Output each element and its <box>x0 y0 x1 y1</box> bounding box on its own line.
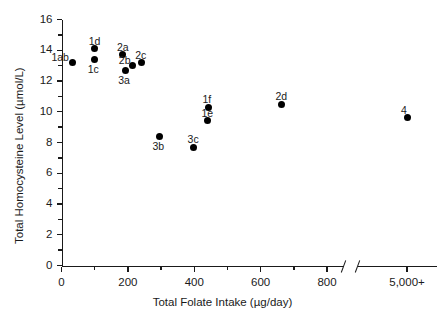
x-tick-minor <box>293 267 294 271</box>
y-tick-minor <box>58 65 62 66</box>
data-point-label: 1c <box>88 64 99 75</box>
x-tick-minor <box>160 267 161 271</box>
data-point-label: 4 <box>401 105 407 116</box>
y-tick-minor <box>58 188 62 189</box>
data-point-label: 1f <box>203 94 212 105</box>
y-tick-major <box>57 19 62 20</box>
data-point-label: 3a <box>118 75 130 86</box>
x-tick-label: 5,000+ <box>377 277 437 289</box>
y-tick-label: 10 <box>22 106 53 118</box>
data-point <box>69 59 76 66</box>
data-point <box>91 56 98 63</box>
data-point <box>156 133 163 140</box>
y-tick-major <box>57 234 62 235</box>
x-tick-minor <box>227 267 228 271</box>
y-tick-major <box>57 173 62 174</box>
y-tick-minor <box>58 96 62 97</box>
x-axis-line-break-segment <box>358 266 437 267</box>
x-tick-major <box>61 267 62 272</box>
y-tick-minor <box>58 34 62 35</box>
y-tick-major <box>57 80 62 81</box>
data-point-label: 1d <box>89 36 101 47</box>
x-tick-major <box>127 267 128 272</box>
y-tick-label: 16 <box>22 14 53 26</box>
x-tick-major-5000 <box>406 267 407 272</box>
data-point-label: 2c <box>135 50 146 61</box>
y-tick-minor <box>58 249 62 250</box>
data-point <box>122 67 129 74</box>
x-tick-major <box>260 267 261 272</box>
y-tick-label: 14 <box>22 44 53 56</box>
y-axis-title: Total Homocysteine Level (µmol/L) <box>14 67 26 244</box>
data-point-label: 1ab <box>51 52 69 63</box>
x-tick-major <box>326 267 327 272</box>
x-tick-label: 800 <box>302 277 352 289</box>
x-tick-label: 0 <box>37 277 87 289</box>
x-tick-label: 600 <box>236 277 286 289</box>
y-tick-minor <box>58 157 62 158</box>
scatter-chart: 0246810121416 02004006008005,000+ 1ab1d1… <box>0 0 445 313</box>
y-tick-major <box>57 142 62 143</box>
data-point-label: 2b <box>119 55 131 66</box>
y-tick-minor <box>58 219 62 220</box>
data-point-label: 3c <box>188 134 199 145</box>
x-axis-title: Total Folate Intake (µg/day) <box>0 297 445 309</box>
y-tick-label: 2 <box>22 229 53 241</box>
data-point-label: 2d <box>276 91 288 102</box>
x-axis-line-main <box>62 266 345 267</box>
y-tick-label: 8 <box>22 137 53 149</box>
x-tick-label: 400 <box>169 277 219 289</box>
data-point-label: 3b <box>152 141 164 152</box>
y-tick-label: 4 <box>22 198 53 210</box>
y-tick-label: 6 <box>22 167 53 179</box>
x-tick-label: 200 <box>103 277 153 289</box>
x-tick-minor <box>94 267 95 271</box>
data-point-label: 2a <box>117 42 129 53</box>
y-tick-label: 12 <box>22 75 53 87</box>
x-tick-major <box>194 267 195 272</box>
y-tick-label: 0 <box>22 260 53 272</box>
y-tick-minor <box>58 126 62 127</box>
y-tick-major <box>57 111 62 112</box>
y-tick-major <box>57 203 62 204</box>
